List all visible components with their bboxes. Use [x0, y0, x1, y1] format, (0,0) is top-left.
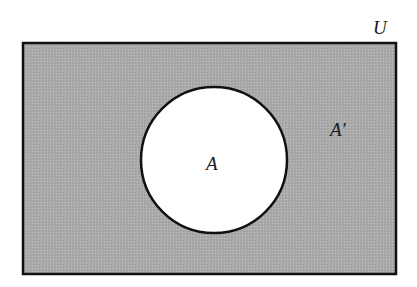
venn-diagram: U A A′	[0, 0, 417, 287]
universe-label: U	[373, 17, 388, 38]
set-a-label: A	[204, 153, 218, 174]
complement-label: A′	[328, 119, 347, 140]
